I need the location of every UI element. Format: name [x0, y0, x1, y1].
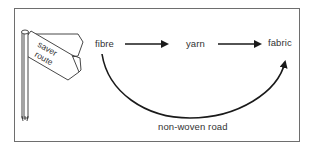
arrow-fibre-to-fabric-curve: [102, 54, 285, 118]
node-fibre: fibre: [95, 38, 114, 49]
signpost-icon: [22, 30, 84, 121]
node-fabric: fabric: [268, 37, 292, 48]
node-yarn: yarn: [186, 38, 205, 49]
curve-label: non-woven road: [158, 121, 228, 132]
